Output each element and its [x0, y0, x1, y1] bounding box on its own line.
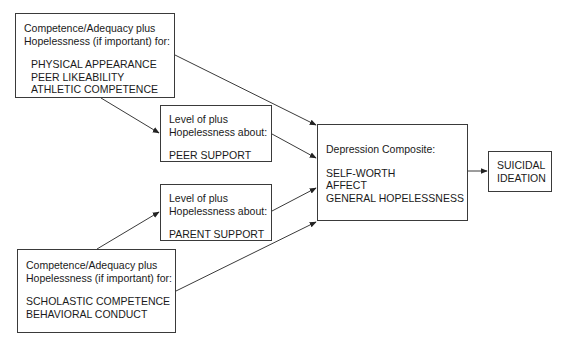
- item-behavioral-conduct: BEHAVIORAL CONDUCT: [26, 308, 175, 321]
- item-scholastic-competence: SCHOLASTIC COMPETENCE: [26, 295, 175, 308]
- node-peer-support: Level of plus Hopelessness about: PEER S…: [160, 105, 272, 162]
- node-suicidal-ideation: SUICIDAL IDEATION: [488, 151, 552, 192]
- node-header: Level of plus Hopelessness about:: [169, 113, 271, 138]
- node-header: Competence/Adequacy plus Hopelessness (i…: [26, 259, 175, 284]
- item-affect: AFFECT: [326, 179, 467, 192]
- header-line: Hopelessness (if important) for:: [26, 272, 175, 285]
- node-depression-composite: Depression Composite: SELF-WORTH AFFECT …: [317, 124, 468, 221]
- node-header: Competence/Adequacy plus Hopelessness (i…: [24, 22, 174, 47]
- header-line: Hopelessness about:: [169, 126, 271, 139]
- node-scholastic-behavioral: Competence/Adequacy plus Hopelessness (i…: [17, 249, 176, 333]
- item-self-worth: SELF-WORTH: [326, 167, 467, 180]
- node-physical-peer-athletic: Competence/Adequacy plus Hopelessness (i…: [15, 13, 175, 98]
- item-peer-support: PEER SUPPORT: [169, 149, 271, 162]
- header-line: Level of plus: [169, 113, 271, 126]
- edge-peer-support-to-depression: [272, 134, 316, 158]
- header-line: Hopelessness (if important) for:: [24, 35, 174, 48]
- label-line: SUICIDAL: [497, 159, 551, 172]
- node-items: SCHOLASTIC COMPETENCE BEHAVIORAL CONDUCT: [26, 295, 175, 320]
- header-line: Depression Composite:: [326, 143, 467, 156]
- header-line: Competence/Adequacy plus: [26, 259, 175, 272]
- item-athletic-competence: ATHLETIC COMPETENCE: [31, 83, 174, 96]
- node-parent-support: Level of plus Hopelessness about: PARENT…: [160, 184, 272, 241]
- edge-scholastic-to-parent-support: [97, 212, 159, 249]
- node-items: PHYSICAL APPEARANCE PEER LIKEABILITY ATH…: [24, 58, 174, 96]
- edge-physical-to-peer-support: [101, 98, 159, 133]
- node-header: Level of plus Hopelessness about:: [169, 192, 271, 217]
- node-header: Depression Composite:: [326, 143, 467, 156]
- header-line: Hopelessness about:: [169, 205, 271, 218]
- item-peer-likeability: PEER LIKEABILITY: [31, 71, 174, 84]
- item-general-hopelessness: GENERAL HOPELESSNESS: [326, 192, 467, 205]
- node-items: SUICIDAL IDEATION: [497, 159, 551, 184]
- label-line: IDEATION: [497, 172, 551, 185]
- header-line: Competence/Adequacy plus: [24, 22, 174, 35]
- item-physical-appearance: PHYSICAL APPEARANCE: [31, 58, 174, 71]
- node-items: SELF-WORTH AFFECT GENERAL HOPELESSNESS: [326, 167, 467, 205]
- edge-parent-support-to-depression: [272, 188, 316, 211]
- item-parent-support: PARENT SUPPORT: [169, 228, 271, 241]
- node-items: PARENT SUPPORT: [169, 228, 271, 241]
- header-line: Level of plus: [169, 192, 271, 205]
- node-items: PEER SUPPORT: [169, 149, 271, 162]
